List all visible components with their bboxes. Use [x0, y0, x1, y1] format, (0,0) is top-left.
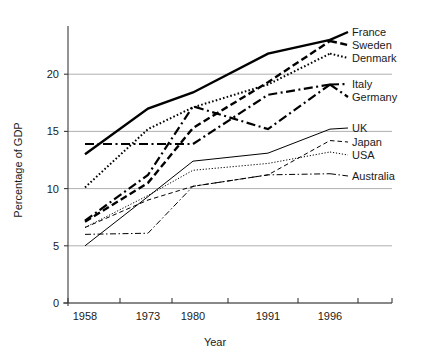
series-line-denmark — [85, 54, 330, 188]
x-tick-labels: 19581973198019911996 — [73, 310, 342, 322]
legend-label-italy: Italy — [352, 78, 373, 90]
y-tick-label-15: 15 — [47, 125, 59, 137]
series-line-france — [85, 40, 330, 154]
gridlines — [68, 74, 392, 303]
legend-labels: FranceSwedenDenmarkItalyGermanyUKJapanUS… — [352, 26, 398, 182]
series-line-australia — [85, 174, 330, 235]
line-chart: 05101520 19581973198019911996 FranceSwed… — [0, 0, 432, 356]
x-tick-label-1958: 1958 — [73, 310, 97, 322]
x-tick-label-1973: 1973 — [136, 310, 160, 322]
legend-connector-japan — [330, 141, 348, 142]
legend-label-japan: Japan — [352, 136, 382, 148]
legend-connectors — [330, 32, 348, 176]
y-axis-title: Percentage of GDP — [12, 122, 24, 217]
y-tick-label-10: 10 — [47, 183, 59, 195]
series-line-uk — [85, 129, 330, 246]
legend-label-germany: Germany — [352, 91, 398, 103]
legend-label-france: France — [352, 26, 386, 38]
x-tick-label-1980: 1980 — [181, 310, 205, 322]
legend-connector-sweden — [330, 41, 348, 45]
series-line-italy — [85, 84, 330, 143]
legend-connector-uk — [330, 128, 348, 129]
legend-connector-denmark — [330, 54, 348, 58]
y-tick-label-20: 20 — [47, 68, 59, 80]
y-tick-label-0: 0 — [53, 297, 59, 309]
legend-label-sweden: Sweden — [352, 39, 392, 51]
chart-container: 05101520 19581973198019911996 FranceSwed… — [0, 0, 432, 356]
x-tick-label-1996: 1996 — [318, 310, 342, 322]
legend-connector-germany — [330, 84, 348, 97]
y-tick-label-5: 5 — [53, 240, 59, 252]
y-tick-labels: 05101520 — [47, 68, 68, 309]
legend-label-australia: Australia — [352, 170, 396, 182]
series-line-usa — [85, 152, 330, 228]
legend-label-uk: UK — [352, 122, 368, 134]
legend-connector-france — [330, 32, 348, 40]
x-tick-label-1991: 1991 — [256, 310, 280, 322]
x-tickmarks — [68, 298, 392, 303]
legend-label-usa: USA — [352, 149, 375, 161]
series-lines — [85, 40, 330, 246]
legend-connector-australia — [330, 174, 348, 176]
x-axis-title: Year — [204, 336, 227, 348]
legend-connector-usa — [330, 152, 348, 155]
legend-label-denmark: Denmark — [352, 52, 397, 64]
